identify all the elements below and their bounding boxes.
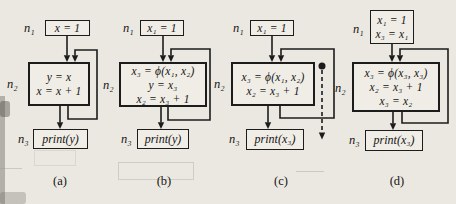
cfg-node-n2-c: x₃ = ϕ(x₁, x₂) x₂ = x₃ + 1 [231,62,315,106]
statement: x₃ = x₁ [375,27,408,41]
figure-caption-d: (d) [381,174,413,189]
statement: x₁ = 1 [377,13,407,27]
cfg-node-n3-c: print(x₃) [246,129,304,150]
arrowhead [265,122,271,129]
node-label-n3-c: n₃ [229,132,240,147]
statement: y = x [47,70,72,84]
cfg-node-n3-b: print(y) [137,129,189,149]
node-label-n1-d: n₁ [353,22,364,37]
node-label-n2-c: n₂ [214,77,225,92]
arrowhead [278,55,284,62]
node-label-n1-b: n₁ [123,21,134,36]
statement: x₁ = 1 [257,21,287,35]
arrowhead [168,55,174,62]
statement: x₃ = x₂ [379,94,412,108]
figure-caption-b: (b) [148,174,180,189]
statement: x₃ = ϕ(x₁, x₂) [242,70,305,84]
cfg-node-n1-a: x = 1 [45,20,90,36]
statement: print(x₃) [374,133,415,148]
cfg-node-n1-d: x₁ = 1 x₃ = x₁ [370,10,414,44]
scanned-figure-cfg-ssa: n₁ x = 1 n₂ y = x x = x + 1 n₃ print(y) … [0,0,456,204]
node-label-n2-a: n₂ [7,77,18,92]
cfg-node-n3-d: print(x₃) [365,130,423,151]
figure-caption-a: (a) [44,174,76,189]
node-label-n2-b: n₂ [103,78,114,93]
cfg-node-n2-d: x₃ = ϕ(x₃, x₃) x₂ = x₃ + 1 x₃ = x₂ [352,62,440,112]
statement: print(y) [145,132,182,147]
cfg-node-n1-b: x₁ = 1 [140,20,184,36]
node-label-n3-b: n₃ [121,132,132,147]
statement: x₃ = ϕ(x₁, x₂) [132,64,195,78]
arrowhead [389,55,395,62]
statement: x₂ = x₃ + 1 [369,80,422,94]
statement: print(y) [42,132,79,147]
cfg-node-n3-a: print(y) [33,129,88,149]
node-label-n3-a: n₃ [18,132,29,147]
arrowhead [57,122,63,129]
statement: x₃ = ϕ(x₃, x₃) [365,66,428,80]
arrowhead [158,122,164,129]
statement: x₁ = 1 [147,21,177,35]
statement: x = x + 1 [37,84,82,98]
use-point-dot-c [319,63,326,70]
statement: y = x₃ [149,78,178,92]
figure-caption-c: (c) [265,174,297,189]
cfg-node-n2-a: y = x x = x + 1 [28,62,90,106]
statement: x₂ = x₃ + 1 [136,92,189,106]
cfg-node-n1-c: x₁ = 1 [250,20,294,36]
statement: x = 1 [55,21,80,35]
arrowhead [269,55,275,62]
dashed-arrowhead [319,133,325,140]
arrowhead [72,55,78,62]
statement: print(x₃) [255,132,296,147]
arrowhead [397,55,403,62]
arrowhead [160,55,166,62]
node-label-n1-a: n₁ [24,21,35,36]
arrowhead [390,123,396,130]
cfg-node-n2-b: x₃ = ϕ(x₁, x₂) y = x₃ x₂ = x₃ + 1 [119,62,207,107]
arrowhead [64,55,70,62]
statement: x₂ = x₃ + 1 [246,84,299,98]
node-label-n1-c: n₁ [233,21,244,36]
node-label-n3-d: n₃ [349,133,360,148]
node-label-n2-d: n₂ [335,81,346,96]
